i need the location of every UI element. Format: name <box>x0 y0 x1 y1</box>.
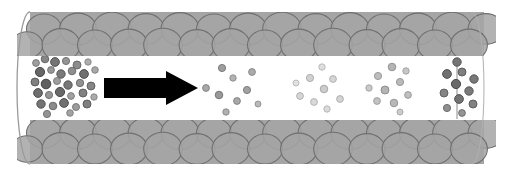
particle <box>37 100 45 108</box>
wall-cell <box>349 30 385 61</box>
particle <box>51 58 60 67</box>
particle <box>76 79 83 86</box>
wall-cell <box>382 133 420 166</box>
particle <box>41 79 51 89</box>
tube-lumen <box>30 56 486 120</box>
particle <box>80 70 89 79</box>
particle <box>62 57 69 64</box>
particle <box>68 93 75 100</box>
wall-cell <box>179 30 215 61</box>
particle <box>469 100 477 108</box>
particle <box>45 91 52 98</box>
particle <box>311 99 318 106</box>
particle <box>87 82 95 90</box>
wall-cell <box>42 133 80 166</box>
wall-cell <box>144 132 183 166</box>
particle <box>403 68 409 74</box>
particle <box>64 81 72 89</box>
particle <box>83 100 91 108</box>
bottom-wall-cell-circles <box>11 116 504 166</box>
particle <box>396 78 403 85</box>
particle <box>223 109 229 115</box>
particle <box>374 98 381 105</box>
particle <box>218 64 225 71</box>
tube-diffusion-figure <box>0 0 510 175</box>
tube-wall-bottom <box>11 116 504 166</box>
top-wall-cell-circles <box>11 12 504 62</box>
particle <box>43 110 50 117</box>
particle <box>234 98 241 105</box>
particle <box>440 89 448 97</box>
particle <box>381 86 389 94</box>
particle <box>67 110 74 117</box>
particle <box>465 87 473 95</box>
particle <box>388 63 396 71</box>
particle <box>390 99 398 107</box>
particle <box>41 55 49 63</box>
particle <box>405 92 412 99</box>
particle <box>68 67 76 75</box>
particle <box>306 74 313 81</box>
particle <box>470 75 478 83</box>
wall-cell <box>281 133 318 165</box>
particle <box>453 58 461 66</box>
particle <box>443 70 452 79</box>
particle <box>57 70 65 78</box>
particle <box>249 69 256 76</box>
particle <box>34 89 43 98</box>
wall-cell <box>418 30 453 60</box>
wall-cell <box>212 133 250 166</box>
wall-cell <box>248 30 283 60</box>
particle <box>366 85 372 91</box>
particle <box>458 68 466 76</box>
tube-wall-top <box>11 12 504 62</box>
particle <box>92 67 99 74</box>
particle <box>297 93 304 100</box>
particle <box>397 109 403 115</box>
particle <box>48 67 55 74</box>
particle <box>330 76 337 83</box>
particle <box>31 78 39 86</box>
particle <box>35 67 44 76</box>
wall-cell <box>78 30 113 60</box>
particle <box>60 99 69 108</box>
particle <box>85 59 91 65</box>
particle <box>230 75 236 81</box>
particle <box>337 96 344 103</box>
wall-cell <box>179 134 215 165</box>
particle <box>215 91 223 99</box>
particle <box>203 85 210 92</box>
wall-cell <box>349 134 385 165</box>
particle <box>255 101 261 107</box>
diagram-canvas: Cylindrical tube with particle flow <box>0 0 510 175</box>
particle <box>73 104 80 111</box>
wall-cell <box>248 134 283 164</box>
particle <box>374 72 381 79</box>
particle <box>293 80 299 86</box>
particle <box>54 78 61 85</box>
particle <box>443 104 450 111</box>
wall-cell <box>314 132 353 166</box>
particle <box>319 64 325 70</box>
wall-cell <box>111 133 148 165</box>
wall-cell <box>418 134 453 164</box>
lumen-fill <box>30 56 486 120</box>
wall-cell <box>78 134 113 164</box>
particle <box>455 95 464 104</box>
particle <box>79 89 87 97</box>
particle <box>33 60 40 67</box>
particle <box>459 110 466 117</box>
particle <box>324 106 330 112</box>
wall-cell <box>451 133 488 165</box>
particle <box>55 87 64 96</box>
particle <box>91 94 97 100</box>
particle <box>49 102 57 110</box>
particle <box>451 79 460 88</box>
particle <box>243 86 250 93</box>
particle <box>320 85 328 93</box>
